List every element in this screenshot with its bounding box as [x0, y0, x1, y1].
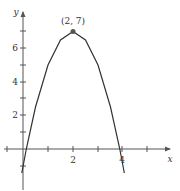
x-axis [4, 147, 171, 152]
y-axis [21, 11, 26, 190]
vertex-label: (2, 7) [61, 16, 85, 26]
y-tick-label-2: 2 [12, 110, 18, 120]
vertex-point [71, 29, 76, 34]
parabola-chart: 2 4 2 4 6 y x (2, 7) [0, 0, 180, 191]
y-tick-label-4: 4 [12, 77, 18, 87]
x-axis-label: x [167, 154, 172, 164]
y-tick-label-6: 6 [12, 43, 18, 53]
y-axis-label: y [12, 7, 19, 17]
x-tick-label-2: 2 [70, 155, 76, 165]
